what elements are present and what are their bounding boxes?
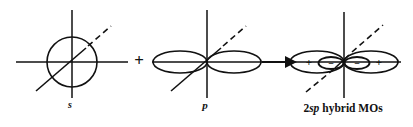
sp-diagonal-axis-dashed-upper	[352, 25, 383, 52]
orbital-hybridization-figure: + + − − + s p 2sp hybrid MOs	[0, 0, 413, 127]
sp-sign-plus-left: +	[306, 56, 312, 68]
caption-hybrid-suffix: hybrid MOs	[319, 102, 382, 114]
panel-p-orbital	[152, 10, 263, 98]
caption-sp-hybrid-orbital: 2sp hybrid MOs	[273, 103, 413, 115]
caption-s-orbital: s	[0, 100, 140, 110]
sp-sign-minus-right: −	[354, 58, 360, 69]
panel-sp-hybrid-orbital: + + − −	[289, 12, 401, 98]
plus-operator: +	[130, 52, 148, 69]
s-diagonal-axis-dashed	[88, 26, 111, 46]
sp-sign-minus-left: −	[328, 58, 334, 69]
caption-p-orbital: p	[135, 100, 275, 111]
p-diagonal-axis-dashed	[223, 26, 246, 46]
panel-s-orbital	[16, 10, 128, 98]
caption-hybrid-italic: sp	[309, 102, 319, 114]
sp-sign-plus-right: +	[376, 56, 382, 68]
